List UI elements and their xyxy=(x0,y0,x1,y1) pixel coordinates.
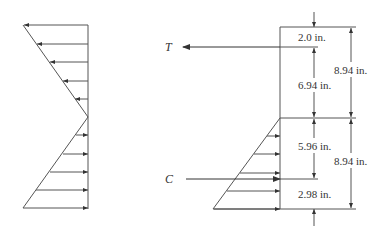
dim-label-2-0: 2.0 in. xyxy=(298,31,326,43)
compression-label: C xyxy=(165,172,174,186)
dim-label-2-98: 2.98 in. xyxy=(298,188,332,200)
stress-diagram: T C 2.0 in. 6.94 in. 8.94 in. 5.96 in. 8… xyxy=(0,0,389,228)
tension-label: T xyxy=(165,40,173,54)
left-stress-distribution xyxy=(23,25,88,209)
dim-label-5-96: 5.96 in. xyxy=(298,140,332,152)
stress-profile-outline xyxy=(23,25,88,208)
dim-label-8-94-lower: 8.94 in. xyxy=(334,155,368,167)
compression-block xyxy=(213,118,280,209)
dim-label-8-94-upper: 8.94 in. xyxy=(334,64,368,76)
dim-label-6-94: 6.94 in. xyxy=(298,79,332,91)
